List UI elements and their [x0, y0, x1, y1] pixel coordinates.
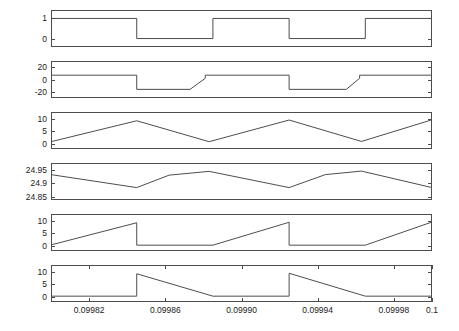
subplot-1: 01 [51, 10, 432, 47]
series-capacitor-voltage [51, 170, 432, 187]
y-tick-label-4-2: 24.95 [26, 166, 47, 175]
figure-canvas: 01-20020051024.8524.924.9505100510 0.099… [0, 0, 459, 331]
subplot-3: 0510 [51, 112, 432, 149]
y-tick-label-5-1: 5 [42, 229, 47, 238]
subplot-2: -20020 [51, 61, 432, 98]
x-tick-label-0: 0.09982 [74, 306, 105, 315]
y-tick-label-1-1: 1 [42, 14, 47, 23]
y-tick-label-3-0: 0 [42, 139, 47, 148]
y-tick-label-5-0: 0 [42, 241, 47, 250]
series-gate-signal [51, 18, 432, 38]
y-tick-label-6-2: 10 [38, 268, 47, 277]
y-tick-label-3-1: 5 [42, 127, 47, 136]
trace-svg-5 [51, 214, 432, 251]
y-tick-label-2-0: -20 [35, 88, 47, 97]
x-tick-label-2: 0.09990 [226, 306, 257, 315]
x-tick-label-3: 0.09994 [302, 306, 333, 315]
y-tick-label-1-0: 0 [42, 34, 47, 43]
trace-svg-2 [51, 61, 432, 98]
y-tick-label-4-1: 24.9 [30, 179, 47, 188]
series-triangle-signal [51, 120, 432, 142]
y-tick-label-5-2: 10 [38, 217, 47, 226]
trace-svg-3 [51, 112, 432, 149]
trace-svg-1 [51, 10, 432, 47]
x-tick-top-5 [432, 265, 433, 269]
subplot-6: 0510 [51, 265, 432, 302]
y-tick-label-2-2: 20 [38, 63, 47, 72]
x-axis-tick-labels: 0.099820.099860.099900.099940.099980.1 [0, 302, 459, 322]
y-tick-label-2-1: 0 [42, 75, 47, 84]
subplot-5: 0510 [51, 214, 432, 251]
y-tick-label-6-0: 0 [42, 292, 47, 301]
series-current-signal [51, 75, 432, 89]
series-diode-current-falling [51, 273, 432, 296]
x-tick-label-4: 0.09998 [379, 306, 410, 315]
subplot-4: 24.8524.924.95 [51, 163, 432, 200]
trace-svg-4 [51, 163, 432, 200]
series-inductor-current-rising [51, 222, 432, 245]
x-tick-label-5: 0.1 [426, 306, 438, 315]
y-tick-label-6-1: 5 [42, 280, 47, 289]
y-tick-label-3-2: 10 [38, 115, 47, 124]
x-tick-label-1: 0.09986 [150, 306, 181, 315]
trace-svg-6 [51, 265, 432, 302]
y-tick-label-4-0: 24.85 [26, 193, 47, 202]
